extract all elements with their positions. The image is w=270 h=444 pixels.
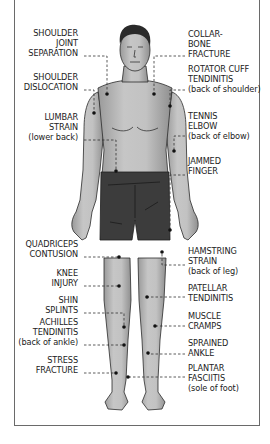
dot-achilles [122, 343, 126, 347]
dot-tennis-elbow [172, 149, 176, 153]
right-leg [138, 258, 166, 410]
dot-collarbone [152, 92, 156, 96]
label-shin-splints: SHIN SPLINTS [45, 295, 78, 315]
dot-shoulder-dislocation [92, 111, 96, 115]
label-hamstring-strain: HAMSTRING STRAIN (back of leg) [188, 246, 238, 276]
dot-shin [122, 325, 126, 329]
label-shoulder-dislocation: SHOULDER DISLOCATION [24, 72, 78, 92]
label-sprained-ankle: SPRAINED ANKLE [188, 338, 228, 358]
dot-stress-fracture [114, 371, 118, 375]
label-rotator-cuff-tendinitis: ROTATOR CUFF TENDINITIS (back of shoulde… [188, 64, 261, 94]
label-patellar-tendinitis: PATELLAR TENDINITIS [188, 283, 233, 303]
dot-hamstring [160, 250, 164, 254]
dot-lumbar [114, 169, 118, 173]
label-plantar-fasciitis: PLANTAR FASCIITIS (sole of foot) [188, 363, 239, 393]
torso [98, 80, 172, 175]
dot-plantar [126, 375, 130, 379]
dot-shoulder-joint [105, 92, 109, 96]
label-knee-injury: KNEE INJURY [51, 268, 78, 288]
label-achilles-tendinitis: ACHILLES TENDINITIS (back of ankle) [18, 317, 78, 347]
label-quadriceps-contusion: QUADRICEPS CONTUSION [26, 239, 78, 259]
label-jammed-finger: JAMMED FINGER [188, 156, 221, 176]
dot-quadriceps [117, 255, 121, 259]
label-tennis-elbow: TENNIS ELBOW (back of elbow) [188, 111, 250, 141]
label-collarbone-fracture: COLLAR- BONE FRACTURE [188, 29, 230, 59]
dot-jammed-finger [168, 228, 172, 232]
label-muscle-cramps: MUSCLE CRAMPS [188, 311, 221, 331]
label-stress-fracture: STRESS FRACTURE [36, 355, 78, 375]
dot-sprained-ankle [146, 351, 150, 355]
dot-knee [117, 284, 121, 288]
left-leg [104, 258, 131, 410]
dot-rotator-cuff [168, 104, 172, 108]
label-lumbar-strain: LUMBAR STRAIN (lower back) [28, 112, 78, 142]
label-shoulder-joint-separation: SHOULDER JOINT SEPARATION [28, 28, 78, 58]
dot-patellar [145, 295, 149, 299]
dot-muscle-cramps [153, 324, 157, 328]
